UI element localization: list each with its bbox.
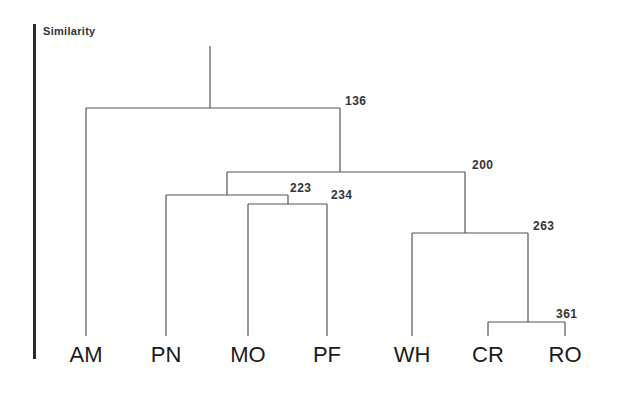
dendrogram <box>0 0 621 398</box>
leaf-label-am: AM <box>70 342 103 368</box>
node-label-136: 136 <box>345 94 367 108</box>
node-label-200: 200 <box>472 158 494 172</box>
node-label-361: 361 <box>556 307 578 321</box>
leaf-label-ro: RO <box>549 342 582 368</box>
node-label-234: 234 <box>331 188 353 202</box>
leaf-label-wh: WH <box>394 342 431 368</box>
leaf-label-mo: MO <box>230 342 265 368</box>
leaf-label-cr: CR <box>472 342 504 368</box>
node-label-223: 223 <box>290 181 312 195</box>
node-label-263: 263 <box>533 219 555 233</box>
leaf-label-pn: PN <box>151 342 182 368</box>
leaf-label-pf: PF <box>313 342 341 368</box>
